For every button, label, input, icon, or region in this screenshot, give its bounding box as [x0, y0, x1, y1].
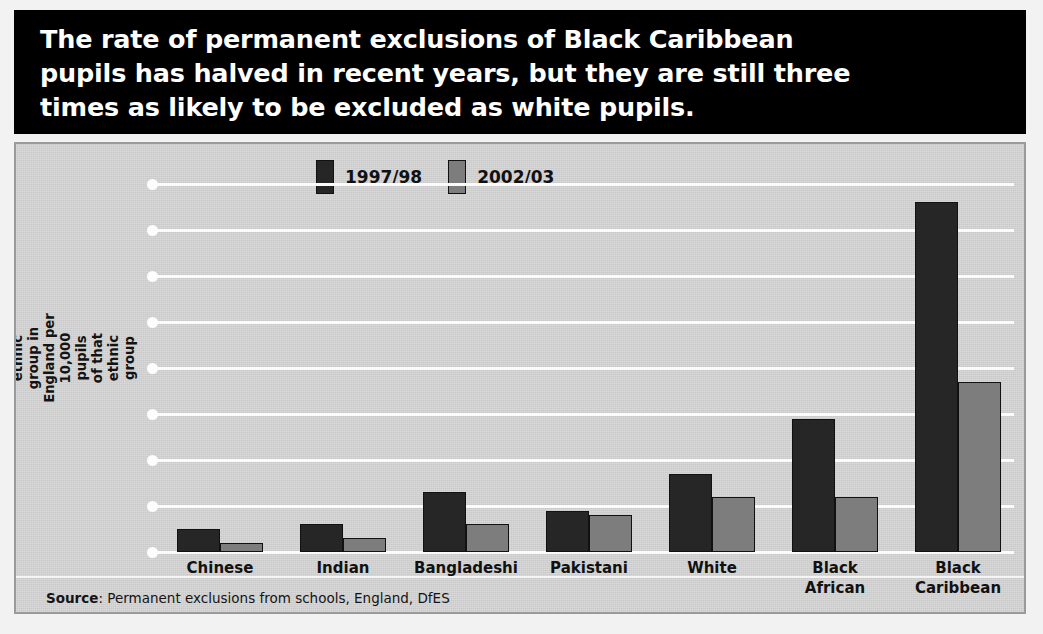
x-axis-category-label: Indian [278, 558, 408, 578]
bar [589, 515, 632, 552]
source-label: Source [46, 590, 98, 606]
bar-group: Indian [300, 184, 386, 552]
bar [958, 382, 1001, 552]
axis-tick-marker-icon [147, 363, 158, 374]
chart-figure: The rate of permanent exclusions of Blac… [0, 0, 1043, 634]
bar-group: Pakistani [546, 184, 632, 552]
bar [915, 202, 958, 552]
source-note: Source: Permanent exclusions from school… [46, 590, 450, 606]
bar [343, 538, 386, 552]
chart-panel: Pupils permanently excluded by ethnic gr… [14, 142, 1026, 614]
axis-tick-marker-icon [147, 409, 158, 420]
bar [300, 524, 343, 552]
source-text: Permanent exclusions from schools, Engla… [107, 590, 449, 606]
bar [423, 492, 466, 552]
axis-tick-marker-icon [147, 317, 158, 328]
x-axis-category-label: Black Caribbean [893, 558, 1023, 598]
axis-tick-marker-icon [147, 179, 158, 190]
plot-area: 01020304050607080ChineseIndianBangladesh… [152, 184, 1014, 552]
bar-group: Black African [792, 184, 878, 552]
bar-group: White [669, 184, 755, 552]
source-divider [16, 576, 1024, 578]
axis-tick-marker-icon [147, 547, 158, 558]
bar [712, 497, 755, 552]
y-axis-label-container: Pupils permanently excluded by ethnic gr… [30, 156, 70, 560]
bar [546, 511, 589, 552]
x-axis-category-label: Chinese [155, 558, 285, 578]
y-axis-label: Pupils permanently excluded by ethnic gr… [14, 311, 138, 406]
axis-tick-marker-icon [147, 455, 158, 466]
x-axis-category-label: Pakistani [524, 558, 654, 578]
title-banner: The rate of permanent exclusions of Blac… [14, 10, 1026, 134]
axis-tick-marker-icon [147, 501, 158, 512]
page-title: The rate of permanent exclusions of Blac… [40, 22, 850, 124]
bar-group: Black Caribbean [915, 184, 1001, 552]
x-axis-category-label: White [647, 558, 777, 578]
x-axis-category-label: Black African [770, 558, 900, 598]
bar-group: Chinese [177, 184, 263, 552]
x-axis-category-label: Bangladeshi [401, 558, 531, 578]
bar [177, 529, 220, 552]
bar [835, 497, 878, 552]
axis-tick-marker-icon [147, 271, 158, 282]
bar [792, 419, 835, 552]
bar-group: Bangladeshi [423, 184, 509, 552]
bar [669, 474, 712, 552]
axis-tick-marker-icon [147, 225, 158, 236]
bar [466, 524, 509, 552]
source-separator: : [98, 590, 107, 606]
bar [220, 543, 263, 552]
